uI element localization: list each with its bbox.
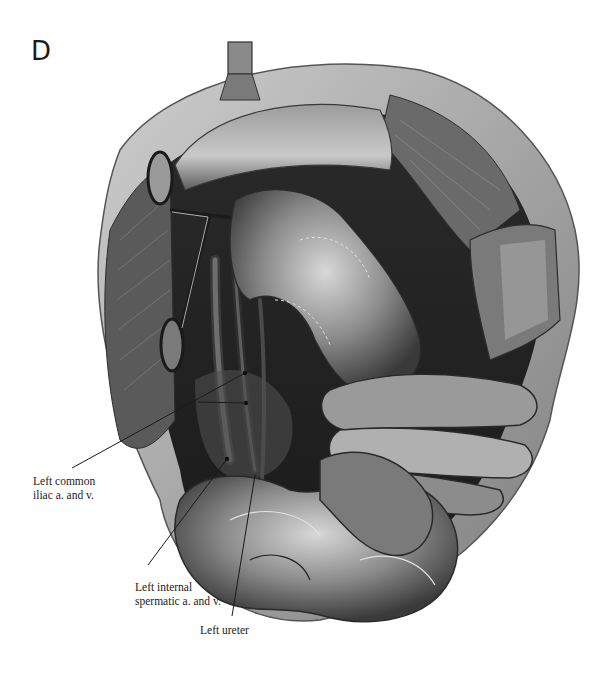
label-left-ureter: Left ureter xyxy=(200,623,249,637)
label-left-common-iliac: Left common iliac a. and v. xyxy=(33,474,95,502)
label-left-internal-spermatic: Left internal spermatic a. and v. xyxy=(135,580,221,608)
label-line: Left common xyxy=(33,474,95,488)
label-line: spermatic a. and v. xyxy=(135,594,221,608)
label-line: Left ureter xyxy=(200,623,249,637)
anatomical-illustration xyxy=(0,0,608,673)
label-line: Left internal xyxy=(135,580,221,594)
label-line: iliac a. and v. xyxy=(33,488,95,502)
retractor-handle xyxy=(228,42,252,74)
